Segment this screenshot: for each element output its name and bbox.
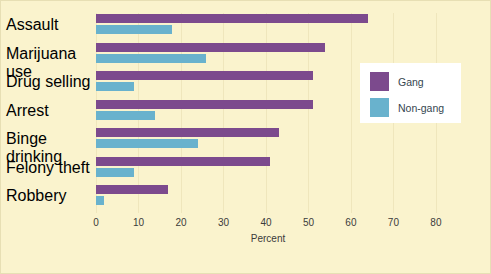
legend-swatch — [370, 98, 389, 117]
x-tick-label: 50 — [303, 217, 314, 228]
bar-non-gang — [96, 111, 155, 120]
bar-non-gang — [96, 168, 134, 177]
x-tick-label: 70 — [388, 217, 399, 228]
category-label: Felony theft — [6, 159, 94, 177]
x-tick-label: 60 — [345, 217, 356, 228]
bar-gang — [96, 185, 168, 194]
legend-label: Non-gang — [398, 102, 444, 114]
bar-gang — [96, 100, 313, 109]
category-label: Drug selling — [6, 73, 94, 91]
category-row: Robbery — [96, 184, 441, 213]
bar-gang — [96, 157, 270, 166]
x-tick-label: 40 — [260, 217, 271, 228]
bar-chart-figure: AssaultMarijuana useDrug sellingArrestBi… — [0, 0, 491, 274]
chart-legend: GangNon-gang — [360, 63, 461, 123]
bar-non-gang — [96, 196, 104, 205]
category-row: Assault — [96, 13, 441, 42]
bar-non-gang — [96, 25, 172, 34]
x-axis-title: Percent — [251, 233, 285, 244]
x-tick-label: 20 — [175, 217, 186, 228]
bar-gang — [96, 71, 313, 80]
category-label: Robbery — [6, 187, 94, 205]
bar-non-gang — [96, 82, 134, 91]
x-tick-label: 30 — [218, 217, 229, 228]
x-tick-label: 10 — [133, 217, 144, 228]
x-tick-label: 80 — [430, 217, 441, 228]
bar-non-gang — [96, 54, 206, 63]
x-axis: 01020304050607080 Percent — [96, 217, 441, 247]
x-tick-label: 0 — [93, 217, 99, 228]
category-label: Arrest — [6, 102, 94, 120]
legend-swatch — [370, 72, 389, 91]
category-row: Binge drinking — [96, 127, 441, 156]
bar-non-gang — [96, 139, 198, 148]
bar-gang — [96, 128, 279, 137]
bar-gang — [96, 43, 325, 52]
bar-gang — [96, 14, 368, 23]
legend-label: Gang — [398, 76, 424, 88]
category-row: Felony theft — [96, 156, 441, 185]
category-label: Assault — [6, 16, 94, 34]
